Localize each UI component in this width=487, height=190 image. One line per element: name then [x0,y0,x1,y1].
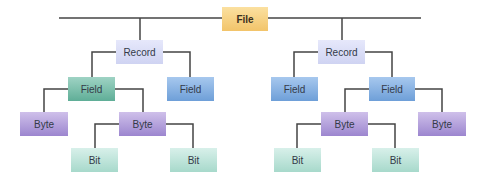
node-record-right: Record [318,40,365,64]
data-hierarchy-diagram: File Record Field Field Byte Byte Bit Bi… [0,0,487,190]
node-byte-right-a: Byte [321,112,368,136]
node-file: File [222,7,268,31]
node-field-left-b: Field [167,77,214,101]
node-bit-right-a: Bit [274,148,321,172]
node-bit-left-b: Bit [170,148,217,172]
node-field-right-a: Field [271,77,318,101]
node-byte-left-b: Byte [119,112,166,136]
node-byte-right-b: Byte [418,112,466,136]
node-bit-right-b: Bit [372,148,419,172]
node-bit-left-a: Bit [71,148,118,172]
node-field-left-a: Field [68,77,115,101]
node-byte-left-a: Byte [20,112,68,136]
node-field-right-b: Field [369,77,415,101]
node-record-left: Record [116,40,163,64]
